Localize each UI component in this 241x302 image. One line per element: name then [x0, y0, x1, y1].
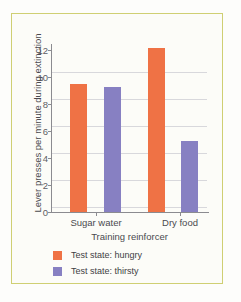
legend-swatch-thirsty-icon: [53, 267, 62, 276]
y-tick-mark-10: [48, 77, 51, 78]
y-tick-mark-8: [48, 104, 51, 105]
plot-area: [52, 48, 207, 212]
bar-dry-food-hungry: [148, 48, 165, 212]
x-tick-mark-sugar-water: [96, 213, 97, 216]
x-tick-label-dry-food: Dry food: [145, 217, 215, 228]
legend-item-hungry: Test state: hungry: [53, 247, 142, 263]
y-tick-mark-4: [48, 158, 51, 159]
legend-item-thirsty: Test state: thirsty: [53, 263, 142, 279]
gridline-12: [52, 72, 207, 73]
x-axis-line: [51, 212, 209, 213]
figure-canvas: 0 2 4 6 8 10 12 Lever presses per minute…: [0, 0, 241, 302]
legend-label-thirsty: Test state: thirsty: [71, 266, 139, 276]
y-tick-mark-2: [48, 185, 51, 186]
x-tick-label-sugar-water: Sugar water: [56, 217, 136, 228]
bar-sugar-water-hungry: [70, 84, 87, 212]
bar-sugar-water-thirsty: [104, 87, 121, 212]
y-axis-title: Lever presses per minute during extincti…: [32, 43, 43, 213]
x-axis-title: Training reinforcer: [52, 231, 207, 242]
legend-swatch-hungry-icon: [53, 251, 62, 260]
bar-dry-food-thirsty: [181, 141, 198, 212]
y-tick-mark-6: [48, 131, 51, 132]
y-tick-mark-12: [48, 50, 51, 51]
legend-label-hungry: Test state: hungry: [71, 250, 142, 260]
y-axis-line: [51, 44, 52, 213]
y-tick-mark-0: [48, 212, 51, 213]
x-tick-mark-dry-food: [180, 213, 181, 216]
chart-legend: Test state: hungry Test state: thirsty: [53, 247, 142, 279]
